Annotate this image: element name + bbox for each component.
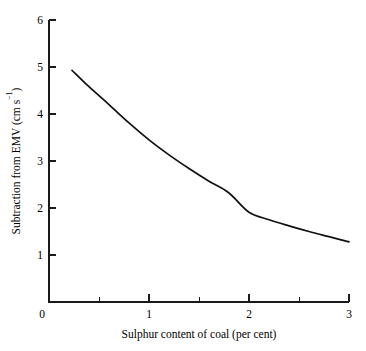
- x-tick-label-3: 3: [346, 308, 352, 320]
- plot-area: 6 5 4 3 2 1 0 1 2 3 Sulphur content of c…: [0, 0, 366, 351]
- x-tick-label-1: 1: [146, 308, 152, 320]
- y-tick-label-3: 3: [37, 155, 43, 167]
- x-tick-label-2: 2: [246, 308, 252, 320]
- y-axis-ticks: [49, 20, 56, 255]
- y-tick-label-1: 1: [37, 249, 43, 261]
- axis-lines: [49, 20, 349, 302]
- x-tick-label-0: 0: [39, 308, 45, 320]
- x-axis-title: Sulphur content of coal (per cent): [122, 328, 277, 341]
- y-tick-label-5: 5: [37, 61, 43, 73]
- y-axis-title: Subtraction from EMV (cm s−1): [5, 87, 24, 234]
- y-tick-label-6: 6: [37, 14, 43, 26]
- x-axis-ticks-major: [149, 294, 349, 302]
- chart-figure: 6 5 4 3 2 1 0 1 2 3 Sulphur content of c…: [0, 0, 366, 351]
- y-tick-label-2: 2: [37, 202, 43, 214]
- data-curve-subtraction-from-emv: [72, 70, 349, 242]
- x-axis-ticks-minor: [99, 297, 299, 302]
- y-tick-label-4: 4: [37, 108, 43, 120]
